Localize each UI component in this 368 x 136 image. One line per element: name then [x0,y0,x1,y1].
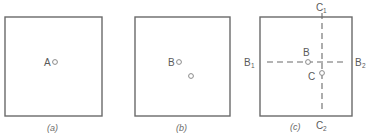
label-b2: B [355,57,362,68]
label-c1-subscript: 1 [323,7,327,14]
point-c-label: C [308,71,315,82]
panel-c-box [260,17,352,116]
point-a-label: A [44,57,51,68]
caption-b: (b) [176,123,187,133]
point-c-marker [320,71,325,76]
figure-diagram: A (a) B (b) B C B 1 B 2 C 1 C 2 (c) [0,0,368,136]
label-b1: B [244,57,251,68]
caption-c: (c) [290,122,301,132]
panel-b: B (b) [135,17,230,133]
panel-b-box [135,17,230,116]
point-b-marker-c [306,60,311,65]
caption-a: (a) [47,123,58,133]
unlabeled-point-marker [189,74,194,79]
label-b1-subscript: 1 [251,62,255,69]
panel-c: B C B 1 B 2 C 1 C 2 (c) [244,2,366,132]
point-a-marker [53,60,58,65]
point-b-marker [177,60,182,65]
label-b2-subscript: 2 [362,62,366,69]
panel-a-box [5,17,102,116]
point-b-label-c: B [303,47,310,58]
point-b-label: B [168,57,175,68]
panel-a: A (a) [5,17,102,133]
label-c2-subscript: 2 [323,125,327,132]
